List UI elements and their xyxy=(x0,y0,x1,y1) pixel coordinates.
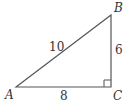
side-label-ab: 10 xyxy=(49,40,64,54)
side-label-ac: 8 xyxy=(60,89,68,103)
vertex-label-c: C xyxy=(113,89,122,103)
vertex-label-b: B xyxy=(113,1,123,15)
side-label-bc: 6 xyxy=(115,43,123,57)
vertex-label-a: A xyxy=(4,88,14,102)
right-angle-marker xyxy=(104,80,111,87)
right-triangle-diagram: A B C 10 6 8 xyxy=(0,0,124,105)
